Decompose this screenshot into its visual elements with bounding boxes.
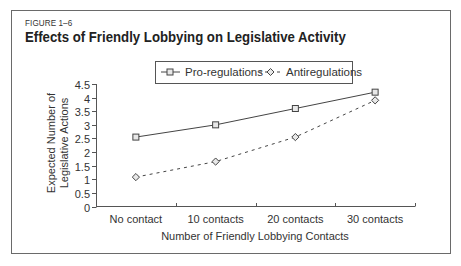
- x-axis-title: Number of Friendly Lobbying Contacts: [161, 230, 349, 242]
- y-tick-label: 0.5: [75, 188, 90, 200]
- x-tick-label: No contact: [110, 213, 163, 225]
- line-chart: Pro-regulations Antiregulations 00.511.5…: [0, 0, 461, 266]
- y-tick-label: 2.5: [75, 133, 90, 145]
- y-tick-label: 3: [84, 120, 90, 132]
- square-marker-icon: [213, 122, 219, 128]
- diamond-marker-icon: [292, 133, 299, 140]
- square-marker-icon: [372, 89, 378, 95]
- y-tick-label: 4.5: [75, 79, 90, 91]
- y-tick-label: 0: [84, 202, 90, 214]
- square-marker-icon: [167, 69, 173, 75]
- series-line-antiregulations: [136, 100, 375, 177]
- series-line-pro-regulations: [136, 92, 375, 137]
- square-marker-icon: [292, 106, 298, 112]
- x-axis: No contact10 contacts20 contacts30 conta…: [96, 203, 416, 225]
- y-tick-label: 1: [84, 174, 90, 186]
- legend-label: Pro-regulations: [185, 66, 263, 78]
- legend-label: Antiregulations: [286, 66, 362, 78]
- y-tick-label: 3.5: [75, 106, 90, 118]
- y-axis: 00.511.522.533.544.5: [75, 79, 97, 214]
- y-axis-title: Expected Number of Legislative Actions: [45, 92, 70, 193]
- legend: Pro-regulations Antiregulations: [156, 62, 363, 84]
- square-marker-icon: [133, 134, 139, 140]
- diamond-marker-icon: [372, 97, 379, 104]
- svg-text:Expected Number of: Expected Number of: [45, 92, 57, 193]
- y-tick-label: 1.5: [75, 161, 90, 173]
- x-tick-label: 30 contacts: [347, 213, 404, 225]
- y-tick-label: 4: [84, 93, 90, 105]
- diamond-marker-icon: [212, 158, 219, 165]
- x-tick-label: 10 contacts: [187, 213, 244, 225]
- y-tick-label: 2: [84, 147, 90, 159]
- x-tick-label: 20 contacts: [267, 213, 324, 225]
- svg-text:Legislative Actions: Legislative Actions: [58, 97, 70, 188]
- diamond-marker-icon: [132, 174, 139, 181]
- plot-area: [132, 89, 378, 181]
